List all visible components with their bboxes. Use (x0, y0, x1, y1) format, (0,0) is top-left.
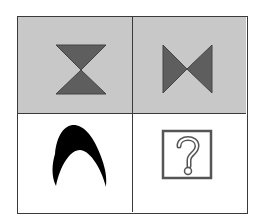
cell-question (133, 114, 246, 212)
cell-hourglass (18, 17, 133, 114)
cell-arch (18, 114, 133, 212)
hourglass-icon (18, 17, 133, 114)
question-box-icon (133, 114, 246, 212)
bowtie-icon (133, 17, 246, 114)
arch-icon (18, 114, 133, 212)
cell-bowtie (133, 17, 246, 114)
puzzle-grid (17, 16, 248, 214)
